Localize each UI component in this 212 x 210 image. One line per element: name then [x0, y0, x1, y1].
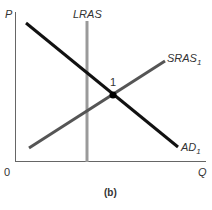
origin-label: 0 [4, 166, 10, 178]
ad-as-chart: P LRAS SRAS1 AD1 1 0 Q (b) [0, 0, 212, 210]
y-axis-label: P [5, 8, 13, 20]
ad1-line [26, 23, 178, 147]
ad1-label: AD1 [180, 141, 201, 156]
lras-label: LRAS [73, 8, 102, 20]
figure-caption: (b) [104, 187, 117, 198]
sras1-label: SRAS1 [167, 52, 201, 67]
equilibrium-label: 1 [110, 76, 116, 88]
x-axis-label: Q [198, 166, 207, 178]
sras1-line [29, 61, 165, 148]
equilibrium-point [110, 92, 117, 99]
